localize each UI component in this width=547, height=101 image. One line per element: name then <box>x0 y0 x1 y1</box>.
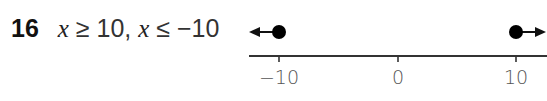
left-arrowhead-icon <box>249 27 260 37</box>
number-line: −10 0 10 <box>0 0 547 101</box>
left-solution-ray <box>249 25 286 39</box>
tick-label-0: 0 <box>392 66 404 88</box>
tick-label-minus-10: −10 <box>259 66 299 88</box>
tick-label-10: 10 <box>504 66 528 88</box>
right-solution-ray <box>509 25 546 39</box>
closed-dot-minus-10 <box>272 25 286 39</box>
closed-dot-10 <box>509 25 523 39</box>
right-arrowhead-icon <box>535 27 546 37</box>
